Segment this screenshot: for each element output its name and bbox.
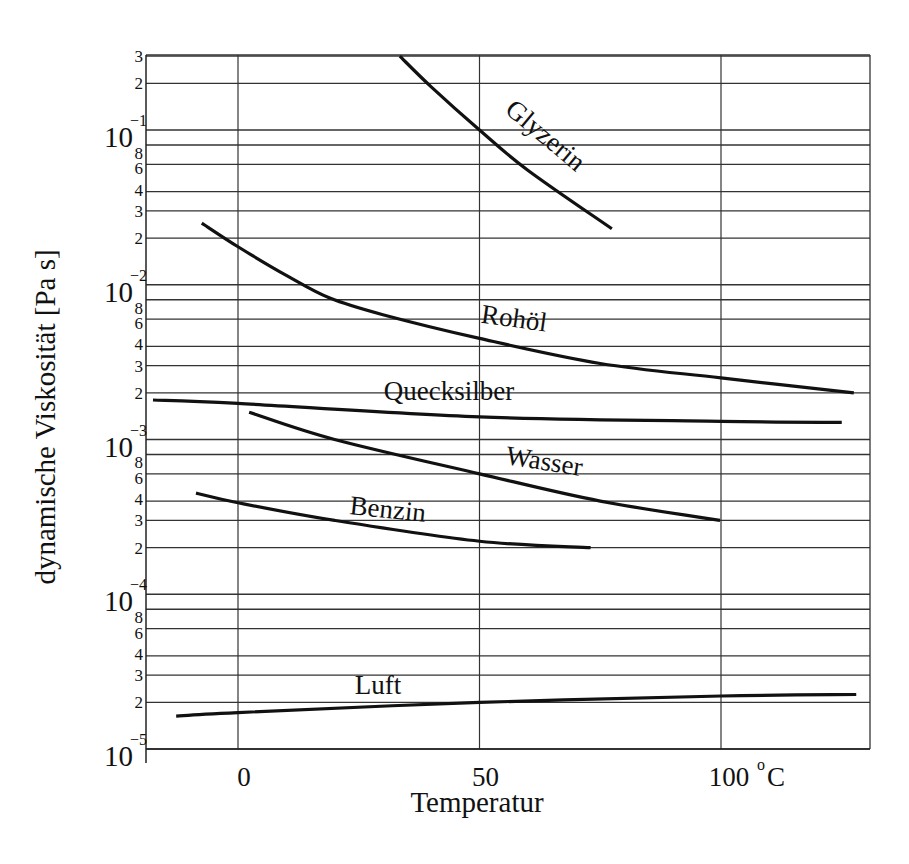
y-tick-label: 3	[135, 666, 144, 685]
viscosity-chart: GlyzerinRohölQuecksilberWasserBenzinLuft…	[0, 0, 909, 864]
y-tick-label: 6	[135, 314, 144, 333]
grid	[146, 55, 870, 763]
y-decade-exponent: −2	[130, 267, 147, 284]
y-decade-label: 10	[104, 585, 133, 617]
y-tick-label: 4	[135, 645, 144, 664]
y-tick-label: 2	[135, 229, 144, 248]
y-decade-label: 10	[104, 276, 133, 308]
y-tick-label: 2	[135, 539, 144, 558]
y-tick-label: 2	[135, 384, 144, 403]
x-tick-label: 0	[237, 762, 251, 792]
y-axis-ticks: 3210−18643210−28643210−38643210−48643210…	[104, 47, 147, 772]
y-tick-label: 3	[135, 202, 144, 221]
series-label: Rohöl	[479, 299, 549, 338]
series-line-wasser	[249, 412, 720, 520]
y-tick-label: 6	[135, 624, 144, 643]
series-line-glyzerin	[400, 56, 612, 229]
series-label: Luft	[355, 670, 402, 700]
y-tick-label: 3	[135, 357, 144, 376]
y-tick-label: 4	[135, 335, 144, 354]
y-tick-label: 6	[135, 469, 144, 488]
y-decade-exponent: −4	[130, 576, 147, 593]
y-tick-label: 4	[135, 181, 144, 200]
y-axis-label: dynamische Viskosität [Pa s]	[29, 249, 61, 584]
y-tick-label: 3	[135, 47, 144, 66]
y-tick-label: 6	[135, 159, 144, 178]
y-decade-label: 10	[104, 740, 133, 772]
y-tick-label: 4	[135, 490, 144, 509]
x-unit-label: C	[767, 762, 785, 792]
series-line-luft	[176, 694, 856, 716]
series-label: Quecksilber	[384, 376, 514, 406]
y-decade-exponent: −1	[130, 112, 147, 129]
series-label: Wasser	[504, 440, 585, 482]
y-tick-label: 2	[135, 693, 144, 712]
y-decade-exponent: −3	[130, 422, 147, 439]
y-decade-label: 10	[104, 431, 133, 463]
y-decade-exponent: −5	[130, 731, 147, 748]
y-decade-label: 10	[104, 121, 133, 153]
x-axis-label: Temperatur	[410, 786, 544, 818]
y-tick-label: 2	[135, 74, 144, 93]
series-label: Benzin	[348, 490, 428, 528]
y-tick-label: 3	[135, 511, 144, 530]
x-tick-label: 100	[709, 762, 750, 792]
degree-symbol: o	[757, 756, 765, 773]
